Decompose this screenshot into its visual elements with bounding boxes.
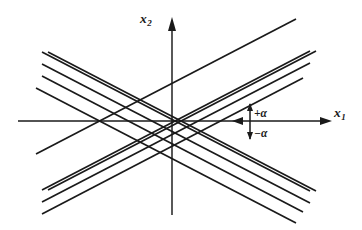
x2-axis-label-subscript: 2 bbox=[147, 18, 152, 28]
x1-axis-label: x1 bbox=[334, 106, 345, 120]
x2-axis-label: x2 bbox=[140, 12, 151, 26]
diagram-canvas bbox=[0, 0, 362, 230]
angle-vertex-arrowhead bbox=[232, 117, 243, 125]
x2-axis-label-base: x bbox=[140, 11, 147, 26]
family-line bbox=[42, 63, 310, 202]
figure-container: x2 x1 +α −α bbox=[0, 0, 362, 230]
negative-alpha-label: −α bbox=[254, 128, 267, 140]
positive-alpha-label: +α bbox=[254, 108, 267, 120]
x1-axis-arrowhead bbox=[320, 117, 332, 125]
angle-span-arrowhead-bottom bbox=[247, 132, 253, 140]
angle-span-marker bbox=[232, 103, 253, 140]
x1-axis-label-subscript: 1 bbox=[341, 112, 346, 122]
x1-axis-label-base: x bbox=[334, 105, 341, 120]
family-line bbox=[42, 64, 310, 203]
line-family-negative-alpha bbox=[36, 52, 316, 223]
x2-axis-arrowhead bbox=[168, 17, 176, 31]
x2-axis bbox=[168, 17, 176, 215]
